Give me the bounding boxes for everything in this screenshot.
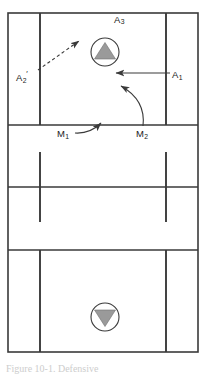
label-a2: A2′ bbox=[16, 70, 28, 83]
prime-mark: ′ bbox=[26, 69, 28, 78]
label-a3: A3 bbox=[114, 14, 124, 25]
figure-caption: Figure 10-1. Defensive bbox=[6, 363, 206, 374]
player-marker-top bbox=[91, 38, 119, 66]
figure-container: A3 A2′ A1 M1 M2 Figure 10-1. Defensive bbox=[0, 0, 206, 374]
label-m2: M2 bbox=[136, 128, 148, 139]
label-m1: M1 bbox=[57, 128, 69, 139]
label-a1: A1 bbox=[172, 69, 182, 80]
court-diagram bbox=[0, 0, 206, 374]
player-marker-bottom bbox=[91, 303, 119, 331]
